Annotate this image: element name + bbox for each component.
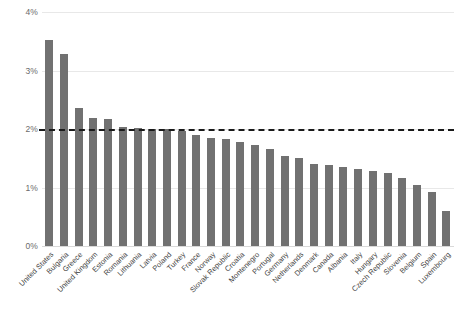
plot-area <box>42 12 454 246</box>
y-axis: 4%3%2%1%0% <box>0 12 38 246</box>
bar[interactable] <box>104 119 112 246</box>
gridline <box>42 246 454 247</box>
y-axis-tick-label: 2% <box>4 124 38 134</box>
y-axis-tick-label: 4% <box>4 7 38 17</box>
bar[interactable] <box>148 129 156 246</box>
bar[interactable] <box>45 40 53 246</box>
target-reference-line <box>39 129 454 131</box>
y-axis-tick-label: 1% <box>4 183 38 193</box>
bar[interactable] <box>369 171 377 246</box>
bar[interactable] <box>384 173 392 246</box>
bar[interactable] <box>60 54 68 246</box>
bar[interactable] <box>442 211 450 246</box>
bar[interactable] <box>281 156 289 246</box>
bar[interactable] <box>295 158 303 246</box>
bar[interactable] <box>325 165 333 246</box>
bar[interactable] <box>178 131 186 246</box>
bar[interactable] <box>398 178 406 246</box>
bar-chart: 4%3%2%1%0% United StatesBulgariaGreeceUn… <box>0 0 459 313</box>
bar[interactable] <box>207 138 215 246</box>
bar[interactable] <box>354 169 362 246</box>
y-axis-tick-label: 3% <box>4 66 38 76</box>
bar[interactable] <box>236 142 244 246</box>
bar[interactable] <box>310 164 318 246</box>
bar[interactable] <box>222 139 230 246</box>
bar[interactable] <box>251 145 259 246</box>
bar[interactable] <box>89 118 97 246</box>
y-axis-tick-label: 0% <box>4 241 38 251</box>
bar[interactable] <box>192 135 200 246</box>
bar[interactable] <box>163 129 171 246</box>
bar[interactable] <box>339 167 347 246</box>
bar[interactable] <box>134 128 142 246</box>
x-axis: United StatesBulgariaGreeceUnited Kingdo… <box>42 248 454 313</box>
bar[interactable] <box>266 149 274 246</box>
bar[interactable] <box>428 192 436 246</box>
bar[interactable] <box>119 127 127 246</box>
bar[interactable] <box>413 185 421 246</box>
